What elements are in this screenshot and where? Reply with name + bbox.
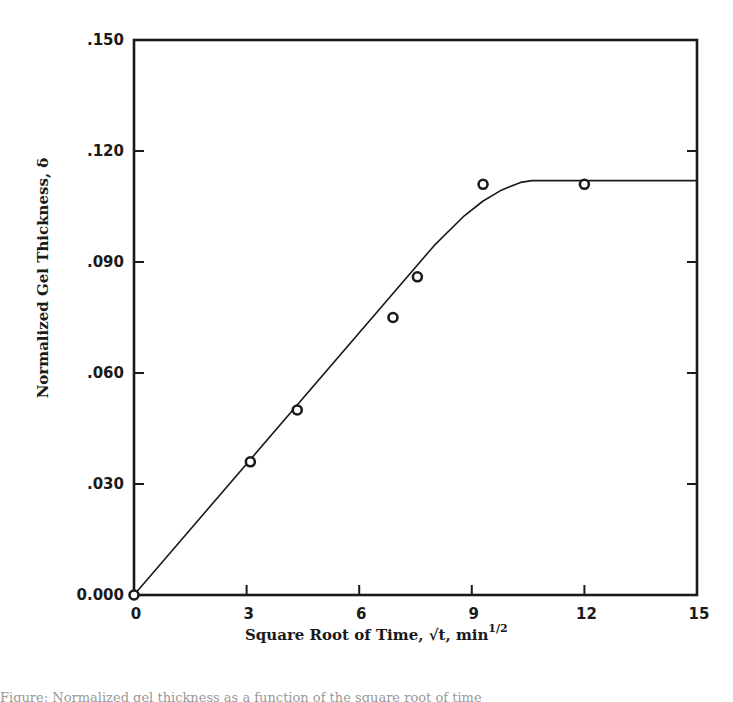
axis-ticks: 036912150.000.030.060.090.120.150 (77, 31, 710, 623)
x-axis-label-exponent: 1/2 (488, 622, 507, 635)
data-point-marker (580, 180, 589, 189)
y-tick-label: .150 (87, 31, 124, 49)
x-tick-label: 12 (576, 605, 597, 623)
x-tick-label: 3 (243, 605, 253, 623)
data-point-marker (413, 272, 422, 281)
data-point-marker (246, 457, 255, 466)
x-tick-label: 6 (356, 605, 366, 623)
x-axis-label-main: Square Root of Time, (245, 626, 429, 644)
y-tick-label: .120 (87, 142, 124, 160)
data-point-marker (388, 313, 397, 322)
y-tick-label: .090 (87, 253, 124, 271)
y-tick-label: 0.000 (77, 586, 124, 604)
data-points (130, 180, 589, 600)
x-tick-label: 9 (469, 605, 479, 623)
y-axis-label: Normalized Gel Thickness, δ (34, 158, 52, 399)
y-tick-label: .060 (87, 364, 124, 382)
figure-caption: Figure: Normalized gel thickness as a fu… (0, 690, 733, 702)
x-axis-label-unit: , min (445, 626, 488, 644)
plot-border (134, 40, 697, 595)
data-point-marker (479, 180, 488, 189)
data-point-marker (130, 591, 139, 600)
x-tick-label: 15 (689, 605, 710, 623)
y-tick-label: .030 (87, 475, 124, 493)
chart: 036912150.000.030.060.090.120.150 Normal… (0, 0, 733, 702)
x-axis-label-sqrt: √t (429, 626, 446, 644)
plot-frame (134, 40, 697, 595)
fit-line-path (134, 181, 697, 595)
x-tick-label: 0 (131, 605, 141, 623)
fit-curve (134, 181, 697, 595)
x-axis-label: Square Root of Time, √t, min1/2 (245, 622, 508, 644)
data-point-marker (293, 406, 302, 415)
